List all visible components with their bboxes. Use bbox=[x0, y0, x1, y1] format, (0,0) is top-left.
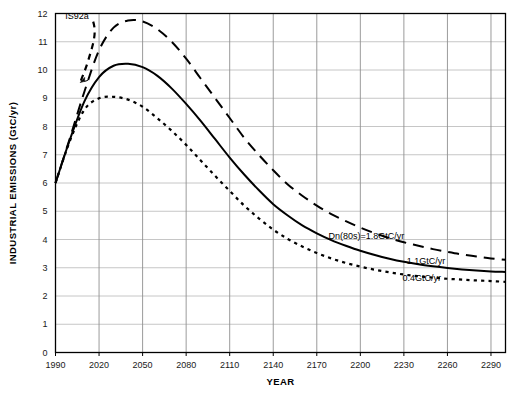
annotation-dn80s-1-8: Dn(80s)=1.8GtC/yr bbox=[328, 231, 404, 241]
y-tick-label: 5 bbox=[42, 206, 47, 216]
annotation-dn80s-0-4: 0.4GtC/yr bbox=[402, 273, 441, 283]
x-tick-label: 1990 bbox=[45, 360, 65, 370]
x-tick-label: 2020 bbox=[89, 360, 109, 370]
chart-figure: 0123456789101112INDUSTRIAL EMISSIONS (Gt… bbox=[0, 0, 519, 394]
y-tick-label: 3 bbox=[42, 263, 47, 273]
x-tick-label: 2080 bbox=[176, 360, 196, 370]
x-tick-label: 2200 bbox=[350, 360, 370, 370]
y-tick-label: 6 bbox=[42, 178, 47, 188]
x-tick-label: 2230 bbox=[394, 360, 414, 370]
x-tick-label: 2170 bbox=[307, 360, 327, 370]
y-tick-label: 12 bbox=[37, 9, 47, 19]
y-tick-label: 11 bbox=[38, 37, 47, 47]
x-tick-label: 2050 bbox=[133, 360, 153, 370]
x-tick-label: 2260 bbox=[437, 360, 457, 370]
y-axis-title: INDUSTRIAL EMISSIONS (GtC/yr) bbox=[7, 102, 18, 264]
y-tick-label: 2 bbox=[42, 291, 47, 301]
annotation-dn80s-1-1: 1.1GtC/yr bbox=[407, 256, 446, 266]
y-tick-label: 10 bbox=[37, 65, 47, 75]
x-axis-title: YEAR bbox=[267, 376, 295, 387]
x-tick-label: 2290 bbox=[481, 360, 501, 370]
y-tick-label: 9 bbox=[42, 93, 47, 103]
y-tick-label: 1 bbox=[42, 319, 47, 329]
y-tick-label: 7 bbox=[42, 150, 47, 160]
y-tick-label: 4 bbox=[42, 235, 47, 245]
x-tick-label: 2140 bbox=[263, 360, 283, 370]
figure-background bbox=[0, 0, 519, 394]
y-tick-label: 0 bbox=[42, 348, 47, 358]
emissions-line-chart: 0123456789101112INDUSTRIAL EMISSIONS (Gt… bbox=[0, 0, 519, 394]
y-tick-label: 8 bbox=[42, 122, 47, 132]
x-tick-label: 2110 bbox=[220, 360, 239, 370]
annotation-is92a: IS92a bbox=[65, 11, 89, 21]
